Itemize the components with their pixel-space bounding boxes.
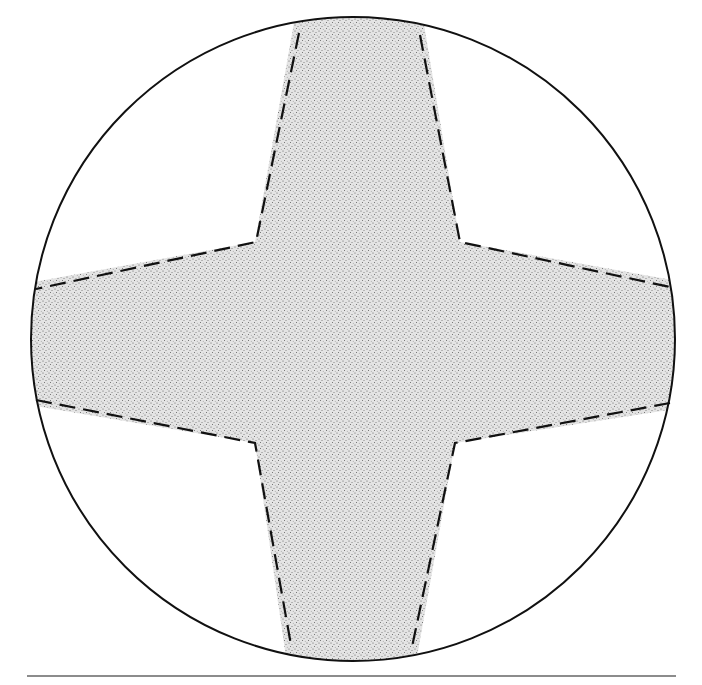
cross-region xyxy=(0,0,700,685)
diagram-figure xyxy=(0,0,702,685)
stippled-cross xyxy=(0,0,700,685)
